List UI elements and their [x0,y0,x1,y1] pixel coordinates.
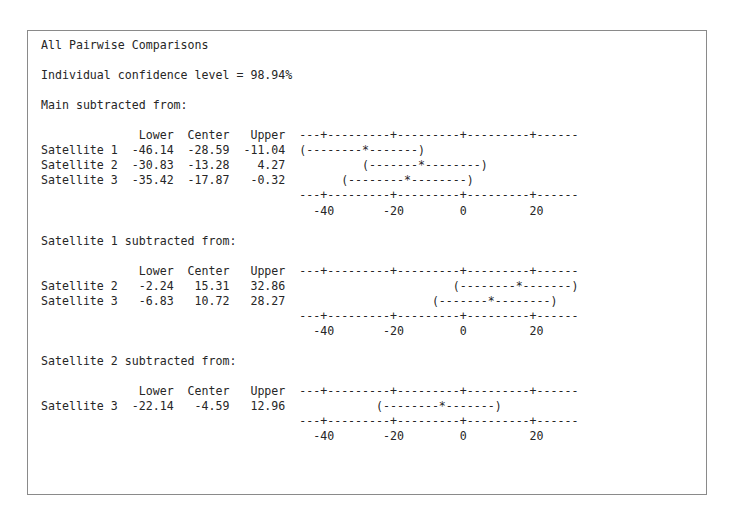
pairwise-comparisons-report: All Pairwise Comparisons Individual conf… [41,38,578,444]
output-pane: All Pairwise Comparisons Individual conf… [27,30,707,495]
screenshot-root: All Pairwise Comparisons Individual conf… [0,0,743,527]
